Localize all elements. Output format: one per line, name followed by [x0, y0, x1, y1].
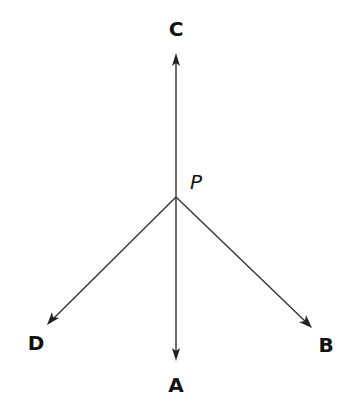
label-a: A	[168, 373, 184, 397]
ray-pd	[47, 197, 176, 325]
rays-diagram: C P D B A	[0, 0, 358, 415]
label-d: D	[28, 331, 45, 355]
ray-pa	[172, 197, 180, 361]
label-c: C	[169, 17, 184, 41]
label-p: P	[190, 170, 203, 194]
label-b: B	[318, 333, 333, 357]
ray-pc	[172, 53, 180, 197]
ray-pb	[176, 197, 312, 328]
